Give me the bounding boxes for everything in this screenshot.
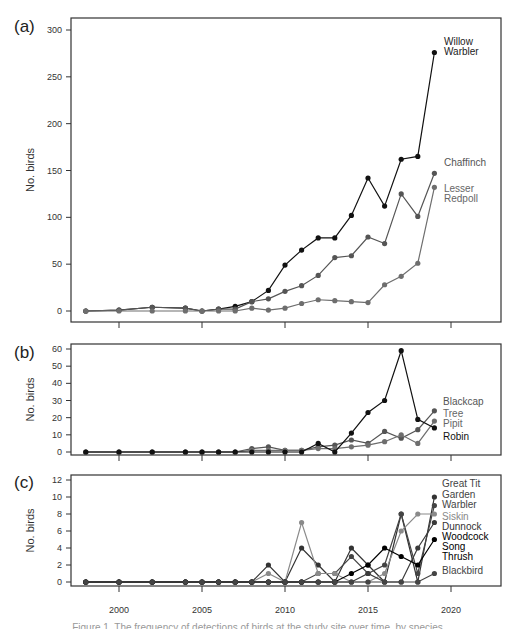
data-point [415,417,420,422]
data-point [399,511,404,516]
data-point [415,545,420,550]
data-point [282,263,287,268]
y-tick-label: 10 [52,492,62,502]
y-tick-label: 150 [47,166,62,176]
data-point [349,431,354,436]
data-point [116,579,121,584]
data-point [399,432,404,437]
data-point [299,520,304,525]
data-point [349,579,354,584]
data-point [116,449,121,454]
data-point [199,579,204,584]
data-point [349,213,354,218]
data-point [432,537,437,542]
data-point [415,154,420,159]
series-line [86,173,435,311]
y-tick-label: 30 [52,396,62,406]
series-line [86,351,435,452]
data-point [299,283,304,288]
y-tick-label: 8 [57,509,62,519]
y-axis-label: No. birds [24,147,36,192]
series-legend-label: Thrush [442,551,473,562]
data-point [415,214,420,219]
data-point [415,441,420,446]
series-legend-label: Great Tit [442,478,481,489]
data-point [365,562,370,567]
y-tick-label: 4 [57,543,62,553]
data-point [266,571,271,576]
data-point [415,571,420,576]
data-point [83,308,88,313]
data-point [233,308,238,313]
data-point [332,579,337,584]
data-point [365,571,370,576]
data-point [299,545,304,550]
data-point [349,437,354,442]
data-point [332,235,337,240]
data-point [316,235,321,240]
y-tick-label: 0 [57,577,62,587]
figure-caption: Figure 1. The frequency of detections of… [0,622,515,629]
data-point [399,191,404,196]
y-tick-label: 0 [57,306,62,316]
x-tick-label: 2005 [192,605,212,615]
data-point [233,449,238,454]
data-point [332,571,337,576]
data-point [349,571,354,576]
data-point [266,307,271,312]
data-point [399,554,404,559]
y-tick-label: 20 [52,413,62,423]
data-point [349,299,354,304]
data-point [316,579,321,584]
data-point [216,308,221,313]
data-point [332,298,337,303]
data-point [332,449,337,454]
data-point [316,297,321,302]
data-point [365,443,370,448]
series-legend-label: Blackbird [442,565,483,576]
y-tick-label: 2 [57,560,62,570]
data-point [382,429,387,434]
data-point [266,296,271,301]
series-line [86,506,435,583]
plot-frame [71,18,501,322]
data-point [382,282,387,287]
x-tick-label: 2020 [441,605,461,615]
data-point [299,248,304,253]
data-point [266,579,271,584]
data-point [432,185,437,190]
data-point [432,511,437,516]
data-point [150,579,155,584]
data-point [249,579,254,584]
data-point [116,308,121,313]
panel-label: (a) [14,17,35,36]
y-tick-label: 40 [52,378,62,388]
y-tick-label: 200 [47,119,62,129]
data-point [382,203,387,208]
data-point [299,449,304,454]
data-point [266,562,271,567]
data-point [316,446,321,451]
data-point [216,579,221,584]
data-point [282,449,287,454]
data-point [233,579,238,584]
data-point [365,300,370,305]
plot-frame [71,344,501,455]
series-legend-label: Redpoll [444,193,478,204]
data-point [316,571,321,576]
data-point [432,494,437,499]
data-point [382,562,387,567]
data-point [316,273,321,278]
data-point [432,419,437,424]
y-tick-label: 0 [57,447,62,457]
data-point [432,571,437,576]
y-tick-label: 250 [47,72,62,82]
data-point [382,241,387,246]
series-legend-label: Blackcap [443,396,484,407]
data-point [83,579,88,584]
data-point [365,410,370,415]
series-legend-label: Warbler [442,499,477,510]
y-tick-label: 50 [52,361,62,371]
data-point [432,425,437,430]
y-tick-label: 300 [47,25,62,35]
